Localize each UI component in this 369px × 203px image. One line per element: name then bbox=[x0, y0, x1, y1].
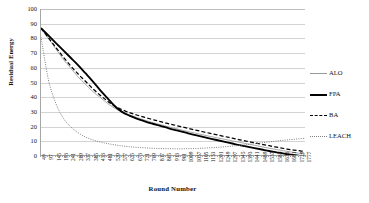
y-tick-label: 100 bbox=[27, 5, 37, 13]
x-tick: 1777 bbox=[301, 157, 310, 183]
chart-legend: ALOFPABALEACH bbox=[310, 62, 369, 146]
y-tick-label: 60 bbox=[31, 64, 37, 72]
y-axis-tick-labels: 1009080706050403020100 bbox=[14, 5, 37, 157]
legend-swatch-alo bbox=[310, 69, 327, 77]
x-axis-tick-labels: 4997145193241289337385433481529577625673… bbox=[40, 157, 305, 185]
y-tick-label: 30 bbox=[31, 108, 37, 116]
series-lines bbox=[41, 9, 305, 156]
legend-swatch-leach bbox=[310, 132, 327, 140]
x-tick-label: 1777 bbox=[305, 152, 314, 163]
series-line-fpa bbox=[41, 28, 305, 156]
legend-swatch-ba bbox=[310, 111, 327, 119]
y-tick-label: 90 bbox=[31, 20, 37, 28]
residual-energy-line-chart: Residual Energy 1009080706050403020100 4… bbox=[0, 0, 369, 203]
legend-item-ba[interactable]: BA bbox=[310, 104, 369, 125]
legend-label: ALO bbox=[329, 69, 343, 76]
series-line-leach bbox=[41, 37, 305, 149]
y-tick-label: 20 bbox=[31, 123, 37, 131]
legend-label: FPA bbox=[329, 90, 341, 97]
legend-line bbox=[310, 73, 327, 74]
legend-item-fpa[interactable]: FPA bbox=[310, 83, 369, 104]
legend-label: LEACH bbox=[329, 132, 351, 139]
x-axis-title: Round Number bbox=[40, 185, 305, 192]
legend-item-alo[interactable]: ALO bbox=[310, 62, 369, 83]
y-tick-label: 70 bbox=[31, 49, 37, 57]
legend-swatch-fpa bbox=[310, 90, 327, 98]
y-tick-label: 40 bbox=[31, 93, 37, 101]
legend-item-leach[interactable]: LEACH bbox=[310, 125, 369, 146]
series-line-ba bbox=[41, 28, 305, 151]
legend-line bbox=[310, 115, 327, 116]
series-line-alo bbox=[41, 28, 305, 154]
legend-line bbox=[310, 94, 327, 96]
legend-line bbox=[310, 136, 327, 137]
y-tick-label: 50 bbox=[31, 79, 37, 87]
y-tick-label: 80 bbox=[31, 34, 37, 42]
plot-area bbox=[40, 9, 305, 156]
legend-label: BA bbox=[329, 111, 338, 118]
y-tick-label: 10 bbox=[31, 137, 37, 145]
